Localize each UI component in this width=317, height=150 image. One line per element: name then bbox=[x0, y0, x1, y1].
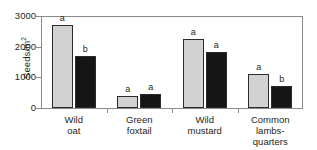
x-category-label-line: oat bbox=[41, 125, 107, 136]
significance-letter: a bbox=[140, 83, 161, 92]
significance-letter: b bbox=[75, 45, 96, 54]
x-tick-mark bbox=[107, 109, 108, 113]
y-tick-label: 2000 bbox=[10, 42, 36, 52]
x-category-label-line: lambs- bbox=[238, 125, 304, 136]
bar-group: aa bbox=[183, 16, 227, 108]
bar-black-series-0 bbox=[75, 56, 96, 108]
y-axis-tick-labels: 0100020003000 bbox=[5, 0, 36, 150]
bar-light-gray-series-0 bbox=[52, 25, 73, 108]
x-tick-mark bbox=[172, 109, 173, 113]
y-tick-mark bbox=[35, 108, 41, 109]
x-category-label-line: Wild bbox=[172, 114, 238, 125]
bar-group: ab bbox=[248, 16, 292, 108]
significance-letter: a bbox=[183, 28, 204, 37]
plot-area: abaaaaab bbox=[41, 16, 303, 108]
significance-letter: b bbox=[271, 75, 292, 84]
bar-group: aa bbox=[117, 16, 161, 108]
bar-black-series-2 bbox=[206, 52, 227, 108]
y-tick-label: 0 bbox=[10, 103, 36, 113]
y-tick-mark bbox=[35, 77, 41, 78]
x-tick-mark bbox=[238, 109, 239, 113]
x-category-label-line: Green bbox=[107, 114, 173, 125]
x-category-label: Wildmustard bbox=[172, 114, 238, 136]
bar-light-gray-series-3 bbox=[248, 74, 269, 108]
y-tick-label: 3000 bbox=[10, 11, 36, 21]
bar-black-series-3 bbox=[271, 86, 292, 108]
bar-group: ab bbox=[52, 16, 96, 108]
significance-letter: a bbox=[248, 63, 269, 72]
x-category-label-line: quarters bbox=[238, 136, 304, 147]
x-category-label-line: foxtail bbox=[107, 125, 173, 136]
bar-light-gray-series-2 bbox=[183, 39, 204, 108]
x-category-label: Commonlambs-quarters bbox=[238, 114, 304, 147]
bar-chart: Seeds/m2 0100020003000 abaaaaab WildoatG… bbox=[0, 0, 317, 150]
x-category-label-line: Common bbox=[238, 114, 304, 125]
x-category-label-line: Wild bbox=[41, 114, 107, 125]
significance-letter: a bbox=[52, 14, 73, 23]
bar-black-series-1 bbox=[140, 94, 161, 108]
x-category-label: Wildoat bbox=[41, 114, 107, 136]
y-tick-mark bbox=[35, 47, 41, 48]
significance-letter: a bbox=[206, 41, 227, 50]
y-tick-label: 1000 bbox=[10, 72, 36, 82]
x-category-label-line: mustard bbox=[172, 125, 238, 136]
x-category-label: Greenfoxtail bbox=[107, 114, 173, 136]
y-tick-mark bbox=[35, 16, 41, 17]
bar-light-gray-series-1 bbox=[117, 96, 138, 108]
significance-letter: a bbox=[117, 85, 138, 94]
